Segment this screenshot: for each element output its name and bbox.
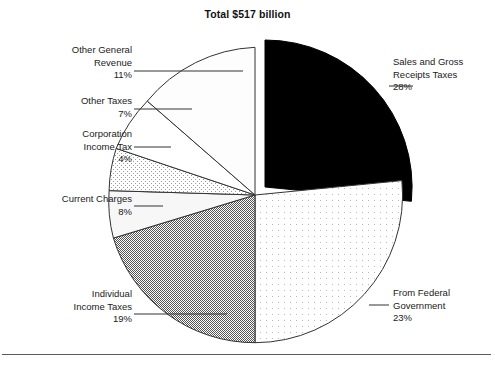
pie-label-percent: 11% (72, 69, 132, 82)
pie-label-percent: 28% (393, 81, 463, 94)
pie-label-line1: Other General (72, 44, 132, 57)
pie-label-line2: Receipts Taxes (393, 69, 463, 82)
pie-label-line2: Revenue (72, 57, 132, 70)
pie-label-line1: Current Charges (62, 193, 132, 206)
pie-label-line2: Income Tax (82, 141, 132, 154)
chart-page: Total $517 billion (0, 0, 495, 372)
pie-label-current-charges: Current Charges 8% (62, 193, 132, 218)
pie-label-sales-and-gross-receipts-taxes: Sales and Gross Receipts Taxes 28% (393, 56, 463, 94)
pie-label-line1: Individual (74, 288, 132, 301)
pie-label-percent: 23% (393, 312, 450, 325)
pie-slice-from-federal-government[interactable] (255, 181, 403, 343)
pie-label-percent: 19% (74, 313, 132, 326)
pie-label-percent: 7% (81, 108, 132, 121)
pie-label-percent: 4% (82, 153, 132, 166)
footer-divider (2, 354, 491, 355)
pie-label-line1: Sales and Gross (393, 56, 463, 69)
pie-label-line1: Other Taxes (81, 95, 132, 108)
pie-label-line2: Income Taxes (74, 301, 132, 314)
pie-label-corporation-income-tax: Corporation Income Tax 4% (82, 128, 132, 166)
pie-label-line1: Corporation (82, 128, 132, 141)
pie-label-line2: Government (393, 300, 450, 313)
pie-label-individual-income-taxes: Individual Income Taxes 19% (74, 288, 132, 326)
pie-label-from-federal-government: From Federal Government 23% (393, 287, 450, 325)
pie-label-other-general-revenue: Other General Revenue 11% (72, 44, 132, 82)
pie-label-line1: From Federal (393, 287, 450, 300)
pie-slice-sales-and-gross-receipts-taxes[interactable] (265, 40, 412, 201)
pie-label-percent: 8% (62, 206, 132, 219)
pie-label-other-taxes: Other Taxes 7% (81, 95, 132, 120)
